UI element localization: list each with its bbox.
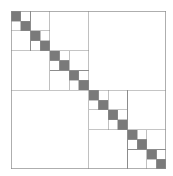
hierarchical-matrix-diagram [11, 11, 166, 169]
figure-root: Hierarchical matrix block partition [0, 0, 173, 176]
